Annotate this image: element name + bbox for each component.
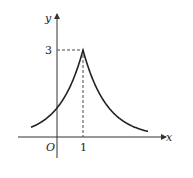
x-tick-label-1: 1 xyxy=(80,141,87,154)
function-curve xyxy=(31,50,148,131)
function-graph: y x O 3 1 xyxy=(0,0,193,178)
origin-label: O xyxy=(46,141,55,154)
y-axis-label: y xyxy=(44,12,52,25)
x-axis-label: x xyxy=(166,131,173,144)
y-tick-label-3: 3 xyxy=(45,44,52,57)
